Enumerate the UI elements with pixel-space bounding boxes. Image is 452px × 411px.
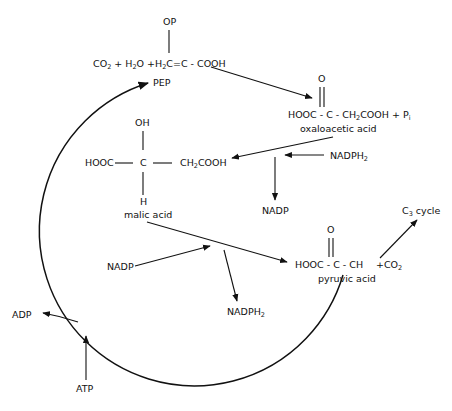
co2-label: +CO2 [376, 259, 402, 272]
pep-equation: CO2 + H2O +H2C=C - COOH [93, 58, 226, 71]
ch2cooh-label: CH2COOH [180, 157, 227, 170]
hooc-label: HOOC [85, 157, 114, 168]
arrow-adp-out [43, 313, 78, 322]
hydroxyl-label: OH [135, 117, 150, 128]
arrow-pep-to-oxaloacetic [211, 67, 312, 98]
nadp-out-label: NADP [262, 205, 289, 216]
arrow-nadp-in [135, 246, 210, 266]
c4-pathway-diagram: OP CO2 + H2O +H2C=C - COOH PEP O HOOC - … [0, 0, 452, 411]
nadph2-in-label: NADPH2 [330, 150, 368, 163]
atp-label: ATP [76, 383, 94, 394]
carbon-label: C [140, 157, 147, 168]
pep-molecule: OP CO2 + H2O +H2C=C - COOH PEP [93, 16, 226, 88]
malic-acid: OH HOOC C CH2COOH H malic acid [85, 117, 227, 220]
pep-label: PEP [153, 77, 171, 88]
adp-label: ADP [12, 309, 32, 320]
op-group: OP [163, 16, 176, 27]
oxygen-label: O [318, 73, 325, 84]
oxaloacetic-acid: O HOOC - C - CH2COOH + Pi oxaloacetic ac… [288, 73, 411, 134]
nadp-in-label: NADP [107, 261, 134, 272]
oxaloacetic-formula: HOOC - C - CH2COOH + Pi [288, 109, 411, 122]
hydrogen-label: H [140, 196, 147, 207]
arrow-nadph2-out [224, 250, 237, 301]
pyruvic-formula: HOOC - C - CH [295, 259, 363, 270]
pyruvic-acid: O HOOC - C - CH +CO2 pyruvic acid [295, 224, 402, 284]
pyruvic-label: pyruvic acid [318, 273, 376, 284]
arrow-to-c3-cycle [380, 220, 417, 258]
oxygen-label: O [327, 224, 334, 235]
oxaloacetic-label: oxaloacetic acid [300, 123, 377, 134]
c3-cycle-label: C3 cycle [402, 205, 441, 218]
arrow-malic-to-pyruvic [147, 222, 287, 262]
nadph2-out-label: NADPH2 [227, 306, 265, 319]
malic-label: malic acid [124, 209, 172, 220]
